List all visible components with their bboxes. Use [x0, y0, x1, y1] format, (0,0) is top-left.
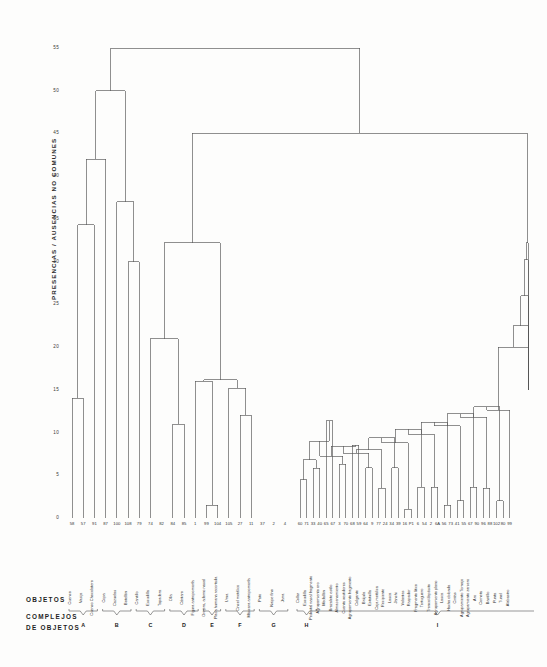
leaf-id: 74: [148, 522, 153, 526]
leaf-name: Volantes: [401, 591, 405, 606]
leaf-name: Colgante: [355, 590, 359, 606]
y-tick-5: 5: [56, 473, 59, 478]
y-axis-title: PRESENCIAS / AUSENCIAS NO COMUNES: [50, 138, 57, 300]
cluster-label-H: H: [305, 622, 309, 628]
leaf-id: 2: [430, 522, 432, 526]
leaf-name: Escudilla: [303, 590, 307, 606]
y-tick-25: 25: [53, 302, 59, 307]
leaf-id: 99: [507, 522, 512, 526]
leaf-id: 27: [238, 522, 243, 526]
leaf-id: 24: [383, 522, 388, 526]
leaf-name: Cintas: [453, 592, 457, 603]
leaf-id: 3: [338, 522, 340, 526]
y-tick-50: 50: [53, 88, 59, 93]
leaf-id: 6: [417, 522, 419, 526]
leaf-name: Cántaro: [180, 591, 184, 605]
leaf-id: 90: [475, 522, 480, 526]
leaf-id: 6A: [435, 522, 440, 526]
figure-canvas: 5550454035302520151050 PRESENCIAS / AUSE…: [0, 0, 547, 667]
leaf-id: 9: [371, 522, 373, 526]
leaf-name: Brújula: [362, 592, 366, 604]
cluster-label-I: I: [437, 622, 439, 628]
leaf-id: 58: [70, 522, 75, 526]
cluster-braces: ABCDEFGHI: [64, 606, 534, 632]
cluster-label-D: D: [182, 622, 186, 628]
leaf-name: Janchi: [394, 592, 398, 603]
leaf-name: Cuenco: [68, 591, 72, 604]
leaf-id: 33: [311, 522, 316, 526]
leaf-id: 1: [194, 522, 196, 526]
dendrogram-tree: [64, 34, 534, 520]
leaf-id: 59: [357, 522, 362, 526]
leaf-name: Copa: [102, 593, 106, 602]
leaf-id: 57: [81, 522, 86, 526]
leaf-id: 54: [422, 522, 427, 526]
leaf-name: Medallón: [322, 590, 326, 606]
leaf-id: 91: [92, 522, 97, 526]
leaf-id: 70: [344, 522, 349, 526]
leaf-id: 60: [298, 522, 303, 526]
leaf-id: 65: [324, 522, 329, 526]
leaf-id: 88: [488, 522, 493, 526]
leaf-name: Collar: [296, 593, 300, 603]
leaf-name: Tapadera: [158, 590, 162, 606]
leaf-name: Corneta: [479, 591, 483, 605]
cluster-label-F: F: [238, 622, 241, 628]
leaf-id: 87: [103, 522, 108, 526]
leaf-name: Lasca: [440, 593, 444, 603]
leaf-name: Alabastro: [506, 590, 510, 606]
leaf-name: Urna: [225, 594, 229, 602]
leaf-name: Jarra: [281, 594, 285, 603]
caption-objetos: OBJETOS: [26, 596, 66, 603]
leaf-id: 108: [125, 522, 132, 526]
leaf-id: 34: [389, 522, 394, 526]
y-tick-45: 45: [53, 131, 59, 136]
leaf-name: Pato: [258, 594, 262, 602]
y-tick-55: 55: [53, 46, 59, 51]
leaf-id: 105: [225, 522, 232, 526]
leaf-id: 64: [363, 522, 368, 526]
leaf-id: 84: [170, 522, 175, 526]
leaf-id: 2: [272, 522, 274, 526]
leaf-id: 56: [442, 522, 447, 526]
y-tick-20: 20: [53, 345, 59, 350]
leaf-id: 55: [461, 522, 466, 526]
leaf-id: P1: [409, 522, 414, 526]
leaf-name: Botellón: [124, 591, 128, 605]
leaf-id: 68: [350, 522, 355, 526]
leaf-id: 41: [455, 522, 460, 526]
cluster-label-G: G: [271, 622, 275, 628]
cluster-label-B: B: [115, 622, 119, 628]
leaf-id: 11: [249, 522, 253, 526]
cluster-label-A: A: [81, 622, 85, 628]
leaf-id: 102: [493, 522, 500, 526]
leaf-name: Escudilla: [146, 590, 150, 606]
leaf-name: Cantillo: [135, 592, 139, 605]
leaf-id: 104: [214, 522, 221, 526]
leaf-name: Naipe fino: [270, 589, 274, 607]
leaf-id: 67: [330, 522, 335, 526]
cluster-label-E: E: [210, 622, 214, 628]
leaf-name: Lasca: [388, 593, 392, 603]
leaf-id: 4: [284, 522, 286, 526]
y-tick-10: 10: [53, 430, 59, 435]
leaf-name: Vasija: [79, 593, 83, 603]
leaf-id: 100: [113, 522, 120, 526]
cluster-brace-paths: [64, 606, 534, 624]
leaf-id: 39: [396, 522, 401, 526]
leaf-name-row: CuencoVasijaCuenco ChocolateroCopaCazuel…: [64, 536, 534, 598]
leaf-name: Tunel: [499, 593, 503, 603]
leaf-id: 67: [468, 522, 473, 526]
leaf-name: Recipiente: [381, 589, 385, 607]
leaf-id: 77: [376, 522, 381, 526]
leaf-id: 80: [501, 522, 506, 526]
leaf-id: 79: [137, 522, 142, 526]
leaf-id: 16: [402, 522, 407, 526]
leaf-id-row: 5857918710010879748284851991041052711372…: [64, 522, 534, 534]
leaf-id: 82: [159, 522, 164, 526]
leaf-id: 99: [204, 522, 209, 526]
leaf-id: 40: [317, 522, 322, 526]
dendrogram-plot: 5550454035302520151050: [64, 34, 534, 520]
leaf-name: Raspador: [407, 590, 411, 607]
leaf-id: 96: [481, 522, 486, 526]
